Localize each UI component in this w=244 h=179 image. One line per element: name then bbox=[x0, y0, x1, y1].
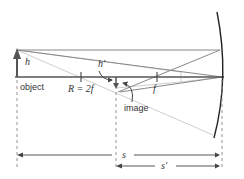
object-distance-label: s bbox=[122, 150, 126, 160]
image-distance-label: s′ bbox=[161, 161, 167, 171]
light-rays bbox=[17, 50, 222, 135]
image-arrow bbox=[113, 77, 119, 89]
object-height-label: h bbox=[25, 57, 30, 67]
radius-label: R = 2f bbox=[68, 84, 94, 94]
rays bbox=[17, 50, 222, 92]
mirror-diagram: h h′ object R = 2f f image s s′ bbox=[0, 0, 244, 179]
object-label: object bbox=[20, 83, 44, 92]
image-height-pointer bbox=[99, 71, 112, 80]
focal-length-label: f bbox=[153, 84, 156, 94]
object-arrow bbox=[13, 48, 21, 77]
image-height-label: h′ bbox=[98, 59, 105, 69]
image-label: image bbox=[124, 104, 149, 113]
image-distance-arrow bbox=[116, 164, 219, 169]
dashed-guides bbox=[17, 80, 222, 170]
object-distance-arrow bbox=[17, 153, 219, 158]
concave-mirror bbox=[214, 12, 223, 138]
